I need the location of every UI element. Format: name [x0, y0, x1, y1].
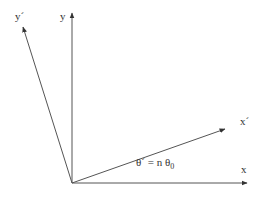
x-label: x: [241, 164, 247, 175]
y-prime-label: y´: [15, 11, 24, 22]
angle-label-subscript: 0: [170, 162, 174, 171]
y-label: y: [60, 11, 66, 22]
x-prime-label: x´: [240, 116, 249, 127]
rotated-axes-diagram: [0, 0, 263, 197]
angle-label: θ´ = n θ0: [136, 157, 174, 171]
y-prime-axis: [23, 27, 72, 183]
angle-label-text: θ´ = n θ: [136, 156, 170, 168]
